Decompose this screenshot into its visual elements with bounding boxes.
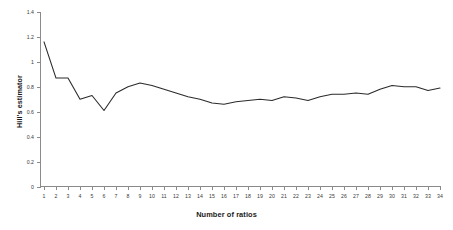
x-tick-label: 7 (115, 193, 118, 199)
x-tick-label: 6 (103, 193, 106, 199)
y-tick-label: 1 (31, 59, 34, 65)
y-tick-label: 0 (31, 184, 34, 190)
x-axis-title: Number of ratios (0, 210, 453, 219)
y-tick-labels: 00.20.40.60.811.21.4 (27, 9, 34, 190)
x-tick-labels: 1234567891011121314151617181920212223242… (43, 193, 443, 199)
x-tick-label: 10 (149, 193, 155, 199)
x-tick-label: 12 (173, 193, 179, 199)
y-tick-label: 0.2 (27, 159, 34, 165)
x-tick-label: 29 (377, 193, 383, 199)
x-tick-label: 28 (365, 193, 371, 199)
x-tick-label: 1 (43, 193, 46, 199)
x-tick-label: 11 (161, 193, 166, 199)
x-tick-label: 5 (91, 193, 94, 199)
x-tick-label: 8 (127, 193, 130, 199)
x-tick-label: 14 (197, 193, 203, 199)
hills-estimator-series (44, 42, 440, 111)
y-tick-marks (37, 13, 41, 188)
x-axis-group (41, 187, 442, 191)
x-tick-label: 2 (55, 193, 58, 199)
x-tick-label: 20 (269, 193, 275, 199)
y-tick-label: 0.6 (27, 109, 34, 115)
x-tick-label: 33 (425, 193, 431, 199)
y-tick-label: 1.2 (27, 34, 34, 40)
x-tick-label: 13 (185, 193, 191, 199)
x-tick-label: 9 (139, 193, 142, 199)
x-tick-label: 30 (389, 193, 395, 199)
x-tick-label: 31 (401, 193, 407, 199)
x-tick-label: 19 (257, 193, 263, 199)
x-tick-label: 26 (341, 193, 347, 199)
y-axis-title: Hill's estimator (15, 42, 24, 162)
y-tick-label: 1.4 (27, 9, 34, 15)
x-tick-marks (45, 187, 441, 191)
x-tick-label: 21 (281, 193, 287, 199)
x-tick-label: 15 (209, 193, 215, 199)
x-tick-label: 23 (305, 193, 311, 199)
x-tick-label: 25 (329, 193, 335, 199)
x-tick-label: 17 (233, 193, 239, 199)
y-tick-label: 0.8 (27, 84, 34, 90)
x-tick-label: 22 (293, 193, 299, 199)
chart-plot-area: 00.20.40.60.811.21.4 1234567891011121314… (0, 0, 453, 230)
x-tick-label: 32 (413, 193, 419, 199)
x-tick-label: 18 (245, 193, 251, 199)
chart-container: 00.20.40.60.811.21.4 1234567891011121314… (0, 0, 453, 230)
x-tick-label: 34 (437, 193, 443, 199)
y-axis-group (37, 12, 41, 187)
x-tick-label: 4 (79, 193, 82, 199)
x-tick-label: 24 (317, 193, 323, 199)
x-tick-label: 3 (67, 193, 70, 199)
y-tick-label: 0.4 (27, 134, 34, 140)
x-tick-label: 27 (353, 193, 359, 199)
x-tick-label: 16 (221, 193, 227, 199)
